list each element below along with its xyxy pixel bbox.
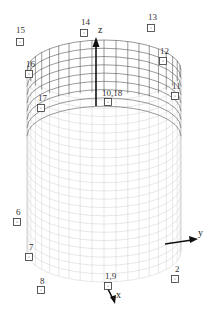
node-label: 11 <box>172 81 181 91</box>
cylinder-diagram: z y x 1514131216111710,186781,92 <box>0 0 213 318</box>
cylinder-front-grid <box>27 70 181 282</box>
node-label: 15 <box>16 25 26 35</box>
node-1-9: 1,9 <box>105 271 117 290</box>
node-16: 16 <box>26 59 36 78</box>
node-label: 8 <box>40 276 45 286</box>
node-label: 13 <box>148 12 158 22</box>
z-axis-label: z <box>98 24 103 35</box>
node-8: 8 <box>38 276 46 294</box>
node-10-18: 10,18 <box>102 88 123 106</box>
node-label: 16 <box>26 59 36 69</box>
node-15: 15 <box>16 25 26 46</box>
node-2: 2 <box>172 264 180 283</box>
x-axis: x <box>108 289 121 304</box>
node-13: 13 <box>148 12 158 32</box>
node-label: 2 <box>175 264 180 274</box>
node-17: 17 <box>38 93 48 112</box>
node-label: 1,9 <box>105 271 117 281</box>
node-label: 14 <box>81 17 91 27</box>
y-axis-label: y <box>198 227 203 238</box>
node-label: 10,18 <box>102 88 123 98</box>
node-label: 12 <box>160 46 169 56</box>
node-14: 14 <box>81 17 91 37</box>
node-12: 12 <box>160 46 170 65</box>
y-axis: y <box>165 227 203 244</box>
node-label: 6 <box>16 207 21 217</box>
node-6: 6 <box>14 207 22 226</box>
node-label: 7 <box>29 242 34 252</box>
node-label: 17 <box>38 93 48 103</box>
x-axis-label: x <box>116 289 121 300</box>
